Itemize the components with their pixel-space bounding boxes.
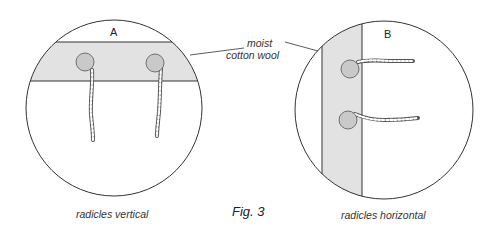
seedling-b1 [341, 60, 413, 78]
dish-a-letter: A [110, 26, 117, 38]
seed-b1 [341, 60, 359, 78]
callout-label-moist: moist [247, 37, 272, 49]
seedling-a1 [76, 53, 94, 140]
callout-leader-b [285, 42, 318, 51]
diagram-canvas [0, 0, 496, 232]
dish-b-caption: radicles horizontal [341, 209, 426, 221]
seedling-b2 [339, 111, 418, 129]
petri-dish-a [20, 20, 220, 196]
seed-a2 [146, 54, 164, 72]
figure-caption: Fig. 3 [232, 204, 265, 219]
dish-b-letter: B [384, 28, 391, 40]
seed-b2 [339, 111, 357, 129]
callout-label-cotton-wool: cotton wool [226, 49, 279, 61]
dish-a-caption: radicles vertical [76, 208, 148, 220]
seedling-a2 [146, 54, 164, 136]
seed-a1 [76, 53, 94, 71]
petri-dish-b [295, 15, 473, 210]
